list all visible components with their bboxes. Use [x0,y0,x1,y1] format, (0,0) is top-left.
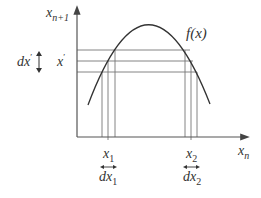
x2-label: x2 [185,146,197,164]
x-axis-label: xn [237,143,249,161]
dx1-label: dx1 [99,169,117,187]
dx-prime-label: dx′ [17,52,32,69]
diagram-canvas: xn+1 xn f(x) x′ dx′ x1 d [0,0,261,198]
horizontal-guide-lines [77,50,197,72]
curve-label: f(x) [186,25,207,42]
dx-prime-double-arrow-icon [36,51,42,73]
y-axis-label: xn+1 [45,5,69,23]
dx2-label: dx2 [183,169,201,187]
vertical-guide-lines-left [102,50,115,140]
diagram-svg: xn+1 xn f(x) x′ dx′ x1 d [0,0,261,198]
x-prime-label: x′ [56,52,65,69]
x1-label: x1 [102,146,114,164]
